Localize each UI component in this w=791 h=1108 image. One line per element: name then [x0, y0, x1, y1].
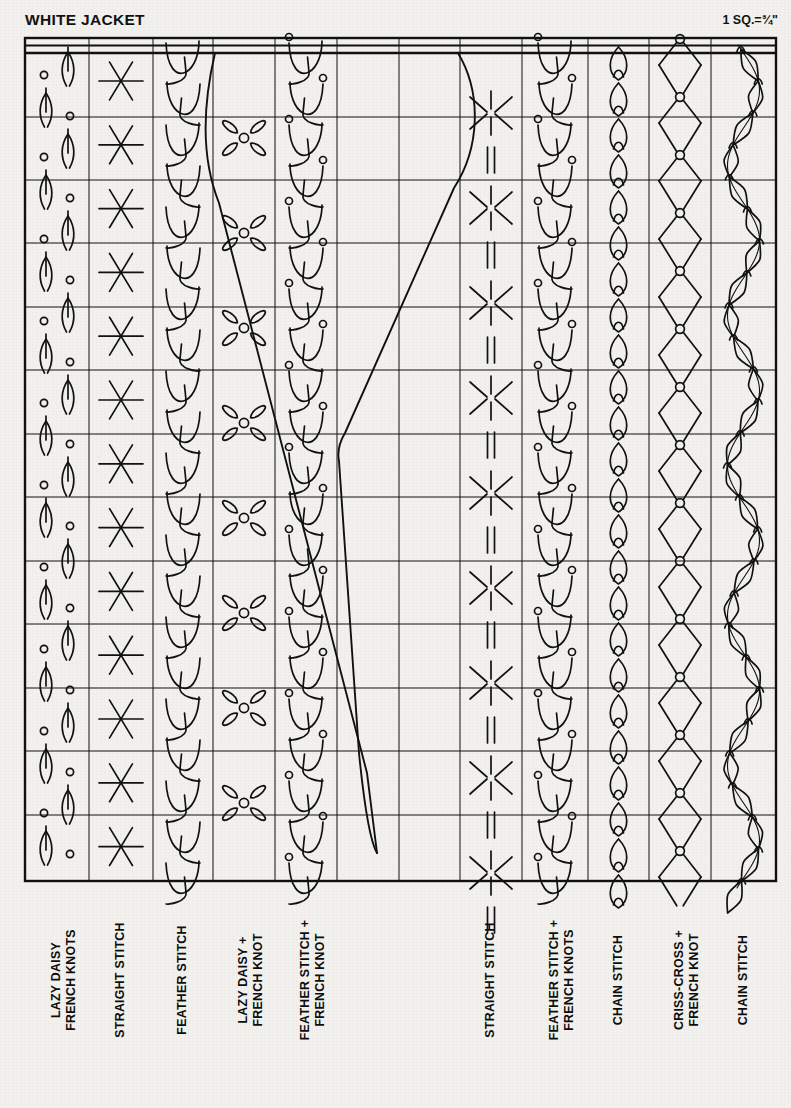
- feather-spur: [180, 590, 182, 605]
- criss-cross-arm: [659, 355, 677, 384]
- french-knot: [535, 854, 542, 861]
- feather-spur: [303, 672, 305, 687]
- criss-cross-arm: [683, 506, 701, 529]
- french-knot: [286, 444, 293, 451]
- feather-spur: [185, 57, 187, 72]
- feather-arc: [166, 369, 199, 401]
- criss-cross-arm: [683, 390, 701, 413]
- noop: [0, 0, 38, 38]
- chain-loop: [610, 299, 627, 332]
- noop: [0, 0, 38, 38]
- chain-loop: [610, 839, 627, 872]
- criss-cross-arm: [683, 158, 701, 181]
- french-knot: [535, 444, 542, 451]
- criss-cross-arm: [659, 181, 677, 210]
- french-knot: [66, 440, 73, 447]
- chain-pinch: [614, 826, 624, 833]
- criss-cross-arm: [683, 796, 701, 819]
- wavy-chain-loop: [748, 817, 762, 849]
- chain-loop: [610, 731, 627, 764]
- noop: [0, 0, 38, 38]
- french-knot: [286, 608, 293, 615]
- feather-spur: [185, 713, 187, 728]
- chain-loop: [610, 371, 627, 404]
- criss-cross-arm: [683, 181, 701, 210]
- motif-cross-and-dash: [470, 91, 512, 933]
- french-knot: [569, 403, 576, 410]
- french-knot: [569, 485, 576, 492]
- flower-petal: [223, 406, 238, 418]
- criss-cross-arm: [659, 645, 677, 674]
- chain-loop: [610, 515, 627, 548]
- feather-arc: [167, 246, 200, 278]
- french-knot: [569, 239, 576, 246]
- chain-loop: [610, 767, 627, 800]
- feather-spur: [552, 98, 554, 113]
- feather-arc: [539, 574, 572, 606]
- straight-stitch-ray: [470, 857, 487, 872]
- feather-spur: [308, 385, 310, 400]
- chain-loop: [610, 263, 627, 296]
- criss-cross-arm: [659, 854, 677, 877]
- criss-cross-arm: [659, 529, 677, 558]
- column-label-1: LAZY DAISY FRENCH KNOTS: [49, 885, 78, 1075]
- feather-arc: [538, 615, 571, 647]
- feather-arc: [167, 574, 200, 606]
- straight-stitch-ray: [470, 287, 487, 302]
- feather-spur: [303, 262, 305, 277]
- chain-loop: [610, 659, 627, 692]
- french-knot: [286, 280, 293, 287]
- feather-spur: [557, 713, 559, 728]
- feather-spur: [180, 508, 182, 523]
- straight-stitch-ray: [470, 494, 487, 509]
- straight-stitch-ray: [495, 192, 512, 207]
- feather-spur: [180, 426, 182, 441]
- straight-stitch-ray: [495, 684, 512, 699]
- french-knot: [535, 362, 542, 369]
- feather-arc: [539, 410, 572, 442]
- column-label-5: FEATHER STITCH + FRENCH KNOT: [298, 885, 327, 1075]
- noop: [0, 0, 38, 38]
- feather-arc: [167, 820, 200, 852]
- flower-petal: [251, 808, 266, 820]
- criss-cross-arm: [659, 471, 677, 500]
- french-knot: [66, 358, 73, 365]
- french-knot: [66, 850, 73, 857]
- french-knot: [66, 604, 73, 611]
- french-knot: [40, 399, 47, 406]
- french-knot: [569, 321, 576, 328]
- feather-arc: [290, 738, 323, 770]
- chain-pinch: [614, 718, 624, 725]
- feather-spur: [557, 467, 559, 482]
- french-knot-center: [239, 323, 248, 332]
- straight-stitch-ray: [495, 857, 512, 872]
- flower-petal: [223, 333, 238, 345]
- french-knot: [569, 813, 576, 820]
- chain-loop: [610, 551, 627, 584]
- chain-pinch: [614, 394, 624, 401]
- criss-cross-arm: [659, 506, 677, 529]
- jacket-neckline-and-right-edge: [338, 53, 475, 853]
- grid-inner-lines: [0, 0, 776, 881]
- flower-petal: [223, 523, 238, 535]
- column-label-8: STRAIGHT STITCH: [483, 885, 498, 1075]
- feather-arc: [538, 123, 571, 155]
- french-knot-center: [239, 513, 248, 522]
- flower-petal: [223, 691, 238, 703]
- french-knot: [320, 321, 327, 328]
- feather-spur: [303, 590, 305, 605]
- straight-stitch-ray: [495, 114, 512, 129]
- feather-spur: [552, 180, 554, 195]
- criss-cross-arm: [659, 680, 677, 703]
- french-knot: [66, 112, 73, 119]
- criss-cross-arm: [683, 297, 701, 326]
- feather-spur: [557, 385, 559, 400]
- feather-arc: [289, 369, 322, 401]
- french-knot-center: [239, 798, 248, 807]
- french-knot: [535, 526, 542, 533]
- feather-arc: [539, 246, 572, 278]
- column-label-11: CRISS-CROSS + FRENCH KNOT: [672, 885, 701, 1075]
- motif-four-petal-flower: [223, 121, 266, 820]
- french-knot: [320, 649, 327, 656]
- french-knot-center: [239, 418, 248, 427]
